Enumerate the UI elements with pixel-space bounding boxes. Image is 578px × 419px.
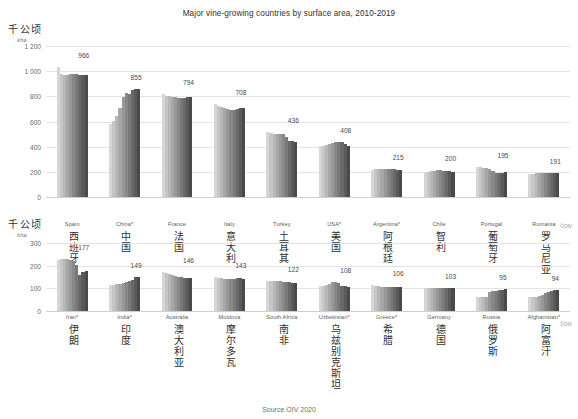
bars [109, 46, 140, 197]
y-axis-tick-1200: 1 200 [24, 43, 41, 50]
country-label-cell: South Africa南非 [256, 314, 308, 390]
country-label-en: Uzbekistan* [319, 314, 350, 320]
country-label-en: Iran* [66, 314, 78, 320]
bar-group: 408 [308, 46, 360, 197]
bars [424, 46, 455, 197]
bars [57, 46, 88, 197]
bar-value-label: 95 [499, 274, 506, 281]
bar [137, 89, 140, 197]
bar [242, 108, 245, 197]
copyright-bottom: ©OIV [560, 322, 572, 327]
bar-group: 106 [360, 243, 412, 311]
bar [399, 170, 402, 197]
country-label-cell: Germany德国 [413, 314, 465, 390]
bar [242, 279, 245, 311]
bar [85, 271, 88, 311]
source-note: Source OIV 2020 [0, 406, 578, 413]
y-axis-unit-bottom: 千公顷 kha [8, 219, 43, 239]
bars [162, 243, 193, 311]
y-axis-tick-100: 100 [30, 285, 41, 292]
bar [504, 289, 507, 311]
country-label-cell: Iran*伊朗 [46, 314, 98, 390]
country-label-en: Germany [427, 314, 451, 320]
country-labels-bottom: Iran*伊朗India*印度Australia澳大利亚Moldova摩尔多瓦S… [46, 314, 570, 390]
y-axis-tick-0: 0 [37, 194, 41, 201]
country-label-en: Russia [483, 314, 501, 320]
bar-value-label: 708 [235, 89, 246, 96]
bar-group: 122 [256, 243, 308, 311]
bar [189, 97, 192, 197]
bar-value-label: 143 [235, 262, 246, 269]
bars [109, 243, 140, 311]
country-label-en: Afghanistan* [527, 314, 560, 320]
plot-area-top: 02004006008001 0001 200 9668557947084364… [46, 46, 570, 197]
bar-value-label: 215 [393, 154, 404, 161]
bars [476, 46, 507, 197]
y-axis-tick-1000: 1 000 [24, 68, 41, 75]
bar-group: 855 [98, 46, 150, 197]
bars [162, 46, 193, 197]
gridline-0 [46, 197, 570, 198]
bar [347, 146, 350, 197]
bar [399, 287, 402, 311]
bar-value-label: 408 [340, 127, 351, 134]
bar-value-label: 200 [445, 155, 456, 162]
y-axis-tick-0: 0 [37, 308, 41, 315]
bar-group: 966 [46, 46, 98, 197]
country-label-cn: 南非 [276, 324, 289, 346]
bar [347, 287, 350, 311]
chart-panel-bottom: 千公顷 kha 0100200300 177149146143122108106… [0, 219, 578, 394]
y-axis-unit-cn-bottom: 千公顷 [8, 219, 43, 231]
country-label-en: Australia [166, 314, 189, 320]
bar [294, 283, 297, 311]
bars [528, 46, 559, 197]
country-label-cn: 希腊 [380, 324, 393, 346]
bar [137, 277, 140, 311]
country-label-cn: 印度 [118, 324, 131, 346]
bar-group: 149 [98, 243, 150, 311]
bars [319, 46, 350, 197]
country-label-en: Greece* [376, 314, 397, 320]
country-label-cell: Moldova摩尔多瓦 [203, 314, 255, 390]
country-label-cn: 澳大利亚 [171, 324, 184, 368]
bar-groups-bottom: 1771491461431221081061039594 [46, 243, 570, 311]
bar-value-label: 191 [550, 158, 561, 165]
country-label-cn: 乌兹别克斯坦 [328, 324, 341, 390]
country-label-en: India* [117, 314, 132, 320]
bar-group: 195 [465, 46, 517, 197]
chart-page: Major vine-growing countries by surface … [0, 0, 578, 419]
bar-group: 794 [151, 46, 203, 197]
bar-value-label: 108 [340, 267, 351, 274]
bar-value-label: 794 [183, 79, 194, 86]
bar-group: 177 [46, 243, 98, 311]
country-label-en: South Africa [266, 314, 297, 320]
bar [294, 142, 297, 197]
country-label-cn: 阿富汗 [538, 324, 551, 357]
bars [371, 46, 402, 197]
country-label-cell: Russia俄罗斯 [465, 314, 517, 390]
country-label-cn: 德国 [433, 324, 446, 346]
country-label-cn: 俄罗斯 [485, 324, 498, 357]
bar-value-label: 146 [183, 257, 194, 264]
country-label-cell: Greece*希腊 [360, 314, 412, 390]
y-axis-tick-200: 200 [30, 262, 41, 269]
bar-group: 200 [413, 46, 465, 197]
bar-value-label: 195 [497, 152, 508, 159]
country-label-cn: 摩尔多瓦 [223, 324, 236, 368]
y-axis-unit-cn: 千公顷 [8, 24, 43, 36]
plot-area-bottom: 0100200300 1771491461431221081061039594 [46, 243, 570, 311]
bar [451, 288, 454, 311]
bar [556, 173, 559, 197]
bars [57, 243, 88, 311]
bars [319, 243, 350, 311]
bar-group: 146 [151, 243, 203, 311]
y-axis-tick-800: 800 [30, 93, 41, 100]
chart-panel-top: 千公顷 kha 02004006008001 0001 200 96685579… [0, 24, 578, 219]
bar-value-label: 103 [445, 273, 456, 280]
bar-value-label: 177 [78, 244, 89, 251]
bar-group: 708 [203, 46, 255, 197]
bar-value-label: 94 [552, 275, 559, 282]
y-axis-tick-200: 200 [30, 168, 41, 175]
country-label-cell: Australia澳大利亚 [151, 314, 203, 390]
bar-group: 143 [203, 243, 255, 311]
